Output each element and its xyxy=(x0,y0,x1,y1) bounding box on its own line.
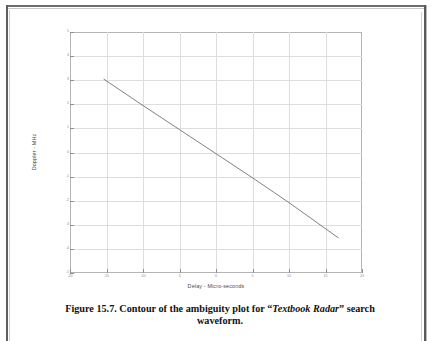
x-tick-label: -10 xyxy=(140,275,145,279)
x-tick-label: -15 xyxy=(104,275,109,279)
y-tick-label: -5 xyxy=(63,271,69,275)
y-tick-label: 2 xyxy=(63,103,69,107)
figure-caption: Figure 15.7. Contour of the ambiguity pl… xyxy=(48,303,392,328)
y-tick-label: 1 xyxy=(63,127,69,131)
x-tick xyxy=(362,269,363,273)
x-tick-label: -20 xyxy=(67,275,72,279)
ambiguity-contour-plot: -20-15-10-505101520 -5-4-3-2-1012345 Del… xyxy=(70,32,362,273)
y-tick-label: -4 xyxy=(63,247,69,251)
y-tick-label: 3 xyxy=(63,78,69,82)
y-tick-label: -3 xyxy=(63,223,69,227)
y-tick-label: 5 xyxy=(63,30,69,34)
y-axis-label: Doppler - MHz xyxy=(31,134,37,171)
x-tick-label: 10 xyxy=(287,275,291,279)
y-tick-label: -1 xyxy=(63,175,69,179)
y-tick-label: -2 xyxy=(63,199,69,203)
x-axis-label: Delay - Micro-seconds xyxy=(188,283,245,289)
contour-centerline xyxy=(104,79,339,238)
x-tick-label: 20 xyxy=(360,275,364,279)
scanned-page: -20-15-10-505101520 -5-4-3-2-1012345 Del… xyxy=(0,0,440,341)
y-tick-label: 4 xyxy=(63,54,69,58)
x-tick-label: 0 xyxy=(215,275,217,279)
y-tick-label: 0 xyxy=(63,151,69,155)
caption-prefix: Figure 15.7. Contour of the ambiguity pl… xyxy=(65,303,267,314)
x-tick-label: -5 xyxy=(178,275,181,279)
caption-emphasis: Textbook Radar xyxy=(272,303,339,314)
x-tick-label: 5 xyxy=(252,275,254,279)
figure-15-7: -20-15-10-505101520 -5-4-3-2-1012345 Del… xyxy=(0,0,440,341)
contour-curves xyxy=(70,32,362,273)
x-tick-label: 15 xyxy=(324,275,328,279)
